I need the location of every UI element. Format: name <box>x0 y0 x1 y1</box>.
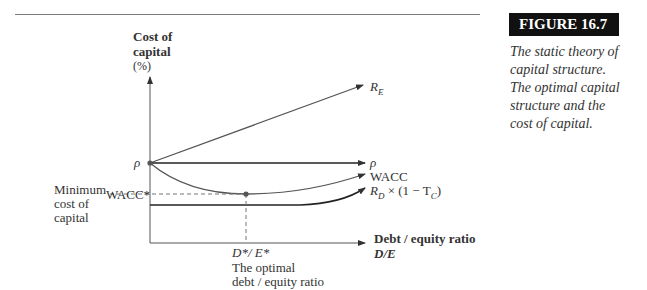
chart-canvas <box>0 0 647 290</box>
x-axis-title-line2: D/E <box>374 246 396 261</box>
min-cost-line2: cost of <box>54 196 89 211</box>
optimal-line1: The optimal <box>232 260 295 275</box>
y-axis-title-line1: Cost of <box>133 29 172 44</box>
re-line <box>150 85 363 163</box>
min-cost-line3: capital <box>54 210 89 225</box>
wacc-min-point <box>243 191 248 196</box>
optimal-line2: debt / equity ratio <box>232 274 324 289</box>
rho-label: ρ <box>370 155 376 170</box>
wacc-label: WACC <box>370 169 408 184</box>
re-label: RE <box>370 79 383 100</box>
min-cost-line1: Minimum <box>54 182 106 197</box>
rd-label: RD × (1 − TC) <box>370 183 441 204</box>
rho-point <box>147 160 152 165</box>
rho-tick-label: ρ <box>134 155 140 170</box>
x-axis-title-line1: Debt / equity ratio <box>374 231 475 246</box>
y-axis-title-line3: (%) <box>133 59 151 74</box>
wacc-curve <box>150 163 365 194</box>
optimal-de-tick-label: D*/ E* <box>232 245 269 260</box>
wacc-star-label: WACC* <box>106 187 150 202</box>
y-axis-title-line2: capital <box>133 44 171 59</box>
rd-curve <box>150 188 365 205</box>
